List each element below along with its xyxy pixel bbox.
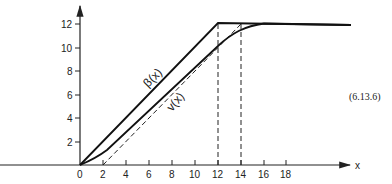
- beta-curve: [80, 23, 351, 165]
- svg-text:2: 2: [100, 169, 106, 180]
- svg-text:18: 18: [280, 169, 292, 180]
- y-tick-labels: 2 4 6 8 10 12: [61, 19, 73, 148]
- svg-text:4: 4: [123, 169, 129, 180]
- svg-text:10: 10: [189, 169, 201, 180]
- equation-number: (6.13.6): [349, 91, 381, 103]
- beta-label: β(x): [140, 65, 165, 90]
- svg-text:16: 16: [258, 169, 270, 180]
- x-tick-labels: 0 2 4 6 8 10 12 14 16 18: [77, 169, 292, 180]
- svg-text:10: 10: [61, 43, 73, 54]
- v-curve: [80, 24, 351, 166]
- y-ticks: [75, 24, 80, 142]
- svg-text:8: 8: [169, 169, 175, 180]
- svg-text:6: 6: [67, 90, 73, 101]
- svg-text:12: 12: [61, 19, 73, 30]
- svg-text:6: 6: [146, 169, 152, 180]
- svg-text:12: 12: [212, 169, 224, 180]
- svg-text:2: 2: [67, 137, 73, 148]
- svg-text:14: 14: [235, 169, 247, 180]
- x-axis-label: x: [355, 160, 360, 171]
- svg-text:4: 4: [67, 113, 73, 124]
- x-ticks: [103, 160, 286, 165]
- svg-text:0: 0: [77, 169, 83, 180]
- svg-text:8: 8: [67, 66, 73, 77]
- chart: x 0 2 4 6 8 10 12 14 16 18 2 4 6: [0, 0, 392, 184]
